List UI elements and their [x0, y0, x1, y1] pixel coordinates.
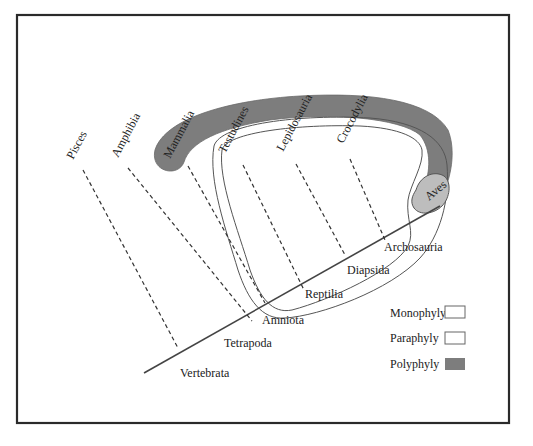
clade-label-reptilia: Reptilia	[305, 287, 344, 301]
legend-label-paraphyly: Paraphyly	[390, 331, 439, 345]
clade-label-diapsida: Diapsida	[347, 263, 390, 277]
cladogram-figure: PiscesAmphibiaMammaliaTestudinesLepidosa…	[0, 0, 533, 446]
clade-label-tetrapoda: Tetrapoda	[224, 336, 272, 350]
clade-label-amniota: Amniota	[262, 313, 305, 327]
legend-swatch-monophyly	[445, 306, 465, 318]
clade-label-archosauria: Archosauria	[384, 240, 443, 254]
legend-label-polyphyly: Polyphyly	[390, 357, 439, 371]
legend-swatch-polyphyly	[445, 358, 465, 370]
clade-label-vertebrata: Vertebrata	[180, 366, 230, 380]
legend: Monophyly Paraphyly Polyphyly	[390, 306, 465, 371]
legend-label-monophyly: Monophyly	[390, 306, 446, 320]
legend-swatch-paraphyly	[445, 332, 465, 344]
